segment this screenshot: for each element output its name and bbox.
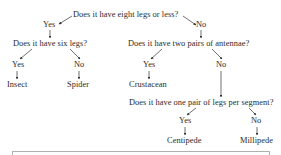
answer-yes-eight-legs: Yes: [43, 20, 55, 30]
leaf-insect: Insect: [7, 80, 27, 90]
question-two-pairs-antennae: Does it have two pairs of antennae?: [128, 39, 249, 49]
leaf-spider: Spider: [67, 80, 89, 90]
answer-no-antennae: No: [216, 60, 226, 70]
caption-box: [12, 151, 270, 155]
leaf-crustacean: Crustacean: [129, 80, 167, 90]
answer-yes-antennae: Yes: [143, 60, 155, 70]
answer-no-one-pair: No: [251, 116, 261, 126]
leaf-centipede: Centipede: [167, 136, 201, 146]
leaf-millipede: Millipede: [240, 136, 273, 146]
question-eight-legs: Does it have eight legs or less?: [73, 10, 178, 20]
question-one-pair-per-segment: Does it have one pair of legs per segmen…: [129, 98, 273, 108]
answer-no-six-legs: No: [74, 60, 84, 70]
answer-no-eight-legs: No: [196, 20, 206, 30]
question-six-legs: Does it have six legs?: [13, 39, 87, 49]
answer-yes-one-pair: Yes: [179, 116, 191, 126]
answer-yes-six-legs: Yes: [12, 60, 24, 70]
